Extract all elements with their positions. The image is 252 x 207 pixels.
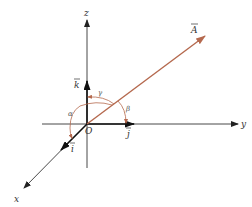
angle-alpha-label: α	[68, 110, 73, 118]
angle-beta-arc	[118, 101, 126, 123]
vector-a	[87, 36, 205, 124]
z-axis-label: z	[83, 8, 89, 18]
unit-i-label: i	[70, 143, 75, 154]
unit-j-label: j	[125, 128, 131, 139]
y-axis-label: y	[240, 119, 247, 129]
vector-a-label: A	[190, 24, 198, 35]
origin-label: O	[85, 126, 93, 136]
unit-k-text: k	[74, 80, 79, 90]
angle-beta-label: β	[125, 105, 130, 113]
vector-a-text: A	[190, 25, 198, 35]
angle-gamma-label: γ	[98, 89, 103, 97]
unit-j-text: j	[125, 129, 130, 139]
unit-i-text: i	[71, 144, 74, 154]
vector-diagram: z y x O A k j i γ β α	[0, 0, 252, 207]
x-axis-label: x	[14, 194, 19, 204]
unit-vector-i	[61, 124, 87, 150]
unit-k-label: k	[74, 79, 80, 90]
diagram-svg: z y x O A k j i γ β α	[0, 0, 252, 207]
